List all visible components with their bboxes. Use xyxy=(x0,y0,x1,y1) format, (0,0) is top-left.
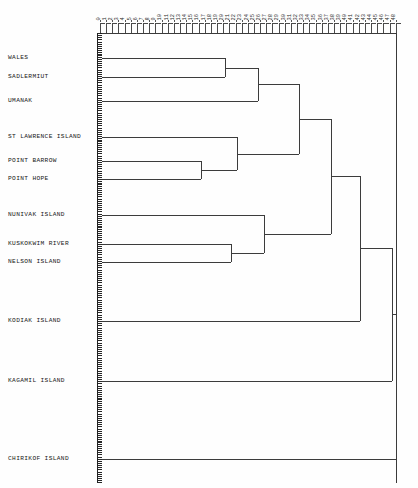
axis-tick-dot xyxy=(254,20,255,22)
axis-tick-cap xyxy=(137,23,142,24)
axis-tick-dot xyxy=(390,20,391,22)
axis-tick-cap xyxy=(291,23,296,24)
axis-tick-dot xyxy=(260,20,261,22)
axis-tick-dot xyxy=(236,20,237,22)
axis-tick-cap xyxy=(112,23,117,24)
axis-tick-cap xyxy=(211,23,216,24)
axis-tick-dot xyxy=(137,20,138,22)
axis-tick-cap xyxy=(334,23,339,24)
dendrogram-branch-horizontal xyxy=(102,459,396,460)
axis-tick-dot xyxy=(106,20,107,22)
axis-tick-cap xyxy=(162,23,167,24)
axis-tick-dot xyxy=(279,20,280,22)
axis-tick-cap xyxy=(328,23,333,24)
axis-tick-dot xyxy=(180,20,181,22)
axis-tick-cap xyxy=(396,23,401,24)
axis-tick-cap xyxy=(118,23,123,24)
axis-tick-dot xyxy=(192,20,193,22)
axis-tick-cap xyxy=(359,23,364,24)
axis-tick-dot xyxy=(340,20,341,22)
axis-tick-cap xyxy=(143,23,148,24)
axis-tick-cap xyxy=(365,23,370,24)
dendrogram-branch-horizontal xyxy=(225,68,258,69)
dendrogram-branch-horizontal xyxy=(102,215,264,216)
axis-tick-cap xyxy=(217,23,222,24)
axis-tick-dot xyxy=(112,20,113,22)
axis-tick-cap xyxy=(316,23,321,24)
axis-tick-cap xyxy=(346,23,351,24)
dendrogram-branch-horizontal xyxy=(102,244,231,245)
axis-tick-cap xyxy=(229,23,234,24)
axis-tick-cap xyxy=(205,23,210,24)
axis-tick-cap xyxy=(322,23,327,24)
dendrogram-branch-horizontal xyxy=(102,58,225,59)
leaf-label: ST LAWRENCE ISLAND xyxy=(8,134,81,140)
dendrogram-branch-horizontal xyxy=(237,154,299,155)
axis-tick-dot xyxy=(100,20,101,22)
axis-tick-dot xyxy=(328,20,329,22)
dendrogram-branch-horizontal xyxy=(331,176,360,177)
dendrogram-figure: 0123456789101112131415161718192021222324… xyxy=(0,0,418,488)
axis-tick-cap xyxy=(266,23,271,24)
axis-tick-dot xyxy=(143,20,144,22)
axis-tick-cap xyxy=(272,23,277,24)
axis-tick-cap xyxy=(371,23,376,24)
dendrogram-branch-horizontal xyxy=(102,381,392,382)
axis-tick-dot xyxy=(229,20,230,22)
dendrogram-merge-vertical xyxy=(396,314,397,459)
axis-tick-dot xyxy=(168,20,169,22)
axis-tick-cap xyxy=(377,23,382,24)
axis-tick-cap xyxy=(168,23,173,24)
axis-tick-cap xyxy=(297,23,302,24)
dendrogram-branch-horizontal xyxy=(102,137,237,138)
axis-tick-dot xyxy=(211,20,212,22)
dendrogram-branch-horizontal xyxy=(360,248,392,249)
axis-tick-dot xyxy=(365,20,366,22)
leaf-label: NELSON ISLAND xyxy=(8,259,61,265)
axis-tick-dot xyxy=(118,20,119,22)
axis-tick-cap xyxy=(223,23,228,24)
axis-tick-cap xyxy=(260,23,265,24)
axis-tick-cap xyxy=(125,23,130,24)
axis-tick-cap xyxy=(192,23,197,24)
leaf-label: UMANAK xyxy=(8,98,32,104)
dendrogram-branch-horizontal xyxy=(102,77,225,78)
axis-tick-dot xyxy=(359,20,360,22)
axis-tick-dot xyxy=(377,20,378,22)
axis-tick-cap xyxy=(155,23,160,24)
leaf-label: POINT BARROW xyxy=(8,158,57,164)
axis-tick-dot xyxy=(297,20,298,22)
axis-tick-dot xyxy=(199,20,200,22)
axis-tick-cap xyxy=(309,23,314,24)
axis-tick-dot xyxy=(316,20,317,22)
axis-tick-dot xyxy=(285,20,286,22)
leaf-label: SADLERMIUT xyxy=(8,74,49,80)
dendrogram-branch-horizontal xyxy=(299,119,331,120)
plot-frame-top xyxy=(100,33,397,34)
axis-tick-dot xyxy=(223,20,224,22)
axis-tick-dot xyxy=(303,20,304,22)
axis-tick-dot xyxy=(353,20,354,22)
axis-tick-cap xyxy=(353,23,358,24)
axis-tick-cap xyxy=(383,23,388,24)
axis-tick-dot xyxy=(291,20,292,22)
leaf-label: POINT HOPE xyxy=(8,176,49,182)
leaf-label: KODIAK ISLAND xyxy=(8,318,61,324)
axis-tick-cap xyxy=(390,23,395,24)
axis-tick-dot xyxy=(272,20,273,22)
axis-tick-cap xyxy=(285,23,290,24)
axis-tick-cap xyxy=(279,23,284,24)
axis-tick-dot xyxy=(371,20,372,22)
dendrogram-branch-horizontal xyxy=(201,170,237,171)
axis-tick-cap xyxy=(131,23,136,24)
axis-tick-dot xyxy=(248,20,249,22)
axis-tick-cap xyxy=(254,23,259,24)
axis-tick-cap xyxy=(186,23,191,24)
leaf-label: KAGAMIL ISLAND xyxy=(8,378,65,384)
leaf-label: WALES xyxy=(8,55,28,61)
axis-tick-dot xyxy=(131,20,132,22)
axis-tick-cap xyxy=(149,23,154,24)
leaf-label: NUNIVAK ISLAND xyxy=(8,212,65,218)
axis-tick-dot xyxy=(186,20,187,22)
dendrogram-branch-horizontal xyxy=(231,253,264,254)
